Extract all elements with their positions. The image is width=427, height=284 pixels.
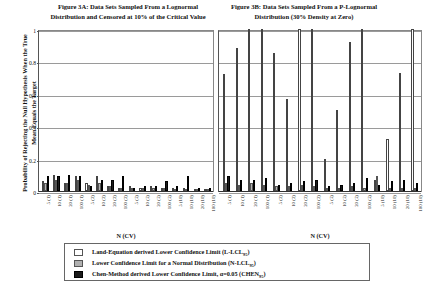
x-tick-cell: 100 (5) bbox=[359, 193, 372, 233]
bar-L-LCL95 bbox=[386, 139, 388, 191]
x-tick-cell: 20 (5) bbox=[148, 193, 159, 233]
bar-group bbox=[191, 31, 202, 191]
bar-group bbox=[258, 31, 271, 191]
bars-b bbox=[220, 31, 421, 191]
bar-L-LCL95 bbox=[273, 53, 275, 191]
x-tick-cell: 20 (1) bbox=[61, 193, 72, 233]
bar-CHEN95 bbox=[265, 178, 267, 191]
bar-group bbox=[137, 31, 148, 191]
x-tick-cell: 5 (5) bbox=[321, 193, 334, 233]
plot-area-a: 00.20.40.60.81 bbox=[38, 30, 214, 192]
bar-group bbox=[116, 31, 127, 191]
legend-swatch-black bbox=[74, 271, 83, 278]
legend-swatch-white bbox=[74, 249, 83, 256]
bar-group bbox=[308, 31, 321, 191]
y-tick-label: 0.6 bbox=[29, 93, 39, 99]
x-tick-cell: 10 (5) bbox=[137, 193, 148, 233]
y-tick-label: 0.8 bbox=[29, 60, 39, 66]
figure-a-title: Figure 3A: Data Sets Sampled From a Logn… bbox=[44, 2, 212, 21]
x-tick-cell: 100 (5) bbox=[159, 193, 170, 233]
chart-panel-b bbox=[218, 30, 422, 192]
bar-L-LCL95 bbox=[261, 29, 263, 191]
x-tick-labels-a: 5 (1)10 (1)20 (1)100 (1)5 (2)10 (2)20 (2… bbox=[38, 193, 214, 233]
x-axis-title-a: N (CV) bbox=[38, 232, 214, 239]
x-tick-cell: 10 (2) bbox=[282, 193, 295, 233]
x-tick-labels-b: 5 (1)10 (1)20 (1)100 (1)5 (2)10 (2)20 (2… bbox=[218, 193, 422, 233]
legend-item: Lower Confidence Limit for a Normal Dist… bbox=[65, 258, 369, 269]
bar-L-LCL95 bbox=[324, 159, 326, 191]
bar-group bbox=[105, 31, 116, 191]
bar-group bbox=[346, 31, 359, 191]
bar-group bbox=[333, 31, 346, 191]
bar-L-LCL95 bbox=[349, 42, 351, 191]
bar-CHEN95 bbox=[187, 176, 189, 191]
bar-group bbox=[270, 31, 283, 191]
x-tick-cell: 10 (1) bbox=[50, 193, 61, 233]
bar-group bbox=[40, 31, 51, 191]
bar-group bbox=[321, 31, 334, 191]
bar-group bbox=[51, 31, 62, 191]
legend-label: Land-Equation derived Lower Confidence L… bbox=[92, 248, 249, 257]
bar-group bbox=[396, 31, 409, 191]
bar-CHEN95 bbox=[111, 180, 113, 191]
bar-group bbox=[94, 31, 105, 191]
bar-group bbox=[127, 31, 138, 191]
legend-item: Land-Equation derived Lower Confidence L… bbox=[65, 247, 369, 258]
bar-CHEN95 bbox=[353, 183, 355, 191]
legend-label: Lower Confidence Limit for a Normal Dist… bbox=[92, 259, 256, 268]
x-tick-label: 100 (10) bbox=[418, 195, 423, 212]
bar-CHEN95 bbox=[403, 180, 405, 191]
x-tick-cell: 20 (10) bbox=[397, 193, 410, 233]
bar-group bbox=[202, 31, 213, 191]
bar-L-LCL95 bbox=[336, 110, 338, 191]
bar-CHEN95 bbox=[101, 180, 103, 191]
x-tick-cell: 10 (5) bbox=[333, 193, 346, 233]
bar-L-LCL95 bbox=[361, 29, 363, 191]
axis-baseline-a bbox=[39, 191, 213, 192]
chart-panel-a: 00.20.40.60.81 bbox=[38, 30, 214, 192]
x-tick-cell: 5 (10) bbox=[170, 193, 181, 233]
axis-baseline-b bbox=[219, 191, 421, 192]
legend-label: Chen-Method derived Lower Confidence Lim… bbox=[92, 270, 266, 279]
plot-area-b bbox=[218, 30, 422, 192]
x-tick-cell: 20 (2) bbox=[295, 193, 308, 233]
x-tick-cell: 10 (10) bbox=[384, 193, 397, 233]
bar-CHEN95 bbox=[227, 176, 229, 191]
bar-group bbox=[72, 31, 83, 191]
x-axis-title-b: N (CV) bbox=[218, 232, 422, 239]
x-tick-cell: 100 (1) bbox=[72, 193, 83, 233]
x-tick-cell: 100 (2) bbox=[116, 193, 127, 233]
bar-CHEN95 bbox=[165, 181, 167, 191]
bar-L-LCL95 bbox=[399, 73, 401, 191]
bar-L-LCL95 bbox=[311, 29, 313, 191]
bars-a bbox=[40, 31, 213, 191]
bar-group bbox=[159, 31, 170, 191]
bar-CHEN95 bbox=[253, 180, 255, 191]
x-tick-cell: 20 (1) bbox=[244, 193, 257, 233]
bar-group bbox=[358, 31, 371, 191]
bar-group bbox=[148, 31, 159, 191]
y-tick-label: 0.4 bbox=[29, 125, 39, 131]
x-tick-cell: 5 (10) bbox=[371, 193, 384, 233]
bar-group bbox=[408, 31, 421, 191]
bar-group bbox=[170, 31, 181, 191]
x-tick-cell: 100 (1) bbox=[257, 193, 270, 233]
bar-CHEN95 bbox=[303, 181, 305, 191]
bar-CHEN95 bbox=[68, 175, 70, 191]
bar-CHEN95 bbox=[366, 178, 368, 191]
x-tick-cell: 5 (2) bbox=[83, 193, 94, 233]
bar-group bbox=[245, 31, 258, 191]
x-tick-label: 100 (10) bbox=[211, 195, 216, 212]
bar-CHEN95 bbox=[79, 176, 81, 191]
bar-CHEN95 bbox=[57, 176, 59, 191]
x-tick-cell: 100 (2) bbox=[308, 193, 321, 233]
bar-CHEN95 bbox=[240, 180, 242, 191]
x-tick-cell: 100 (10) bbox=[203, 193, 214, 233]
x-tick-cell: 10 (1) bbox=[232, 193, 245, 233]
bar-L-LCL95 bbox=[298, 29, 300, 191]
bar-group bbox=[371, 31, 384, 191]
bar-group bbox=[283, 31, 296, 191]
bar-group bbox=[383, 31, 396, 191]
bar-group bbox=[83, 31, 94, 191]
bar-L-LCL95 bbox=[286, 99, 288, 191]
